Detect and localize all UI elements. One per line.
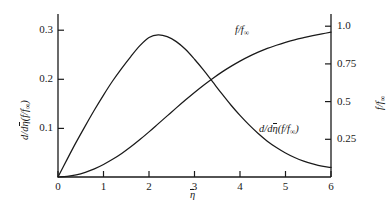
curve-label-deriv-eta: η [272,124,277,135]
y-right-axis-title: f/f∞ [375,96,386,110]
x-tick-4: 4 [230,181,250,192]
x-axis-title: η [190,190,195,201]
x-axis-title-eta: η [190,190,195,201]
y-left-axis-title: d/dη(f/f∞) [20,100,31,140]
x-tick-6: 6 [321,181,341,192]
right-axis-ticks [325,26,331,139]
y-left-title-close: ) [19,100,30,104]
y-right-title-den: f [374,101,385,104]
y-right-title-num: f [374,107,385,110]
curve-label-deriv-prefix: d/d [259,123,272,134]
y-right-tick-1.0: 1.0 [337,20,351,31]
plot-canvas [0,0,390,208]
curve-derivative [58,35,331,177]
x-axis-ticks [58,171,331,177]
x-tick-0: 0 [48,181,68,192]
y-right-tick-0.25: 0.25 [337,133,356,144]
curve-label-deriv-close: ) [295,123,299,134]
y-left-tick-0.2: 0.2 [25,73,53,84]
y-left-title-sub: ∞ [23,104,32,109]
x-tick-2: 2 [139,181,159,192]
figure-container: 0.3 0.2 0.1 1.0 0.75 0.5 0.25 0 1 2 3 4 … [0,0,390,208]
y-left-title-prefix: d/d [19,127,30,140]
curve-label-f-sub: ∞ [244,28,249,37]
x-tick-1: 1 [94,181,114,192]
curve-label-f-num: f [235,24,238,35]
x-tick-5: 5 [276,181,296,192]
y-right-tick-0.5: 0.5 [337,96,351,107]
y-right-tick-0.75: 0.75 [337,58,356,69]
curve-label-derivative: d/dη(f/f∞) [259,124,299,135]
curve-label-deriv-suffix: (f/f [278,123,290,134]
y-left-title-eta: η [20,121,31,126]
y-left-tick-0.3: 0.3 [25,24,53,35]
curve-label-f-over-finf: f/f∞ [235,25,249,36]
left-axis-ticks [58,30,64,128]
y-left-title-suffix: (f/f [19,109,30,121]
y-right-title-sub: ∞ [378,96,387,101]
